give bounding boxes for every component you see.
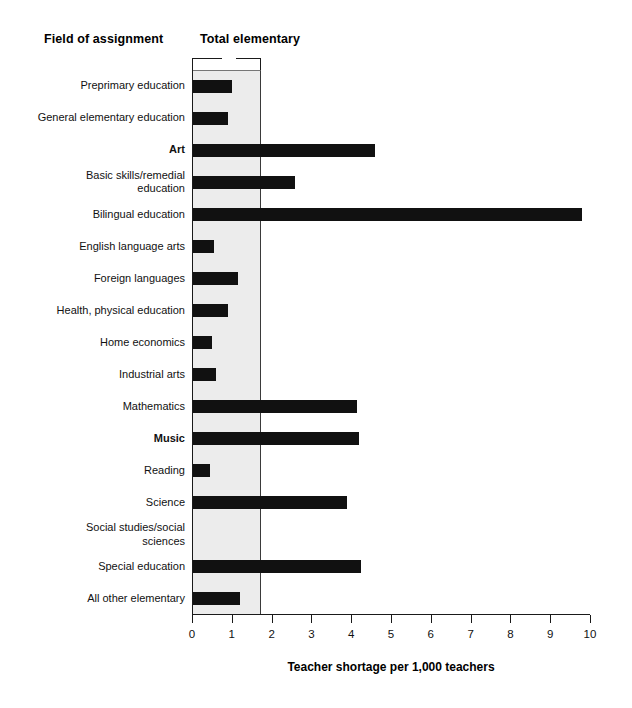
- bar-row: [192, 528, 590, 541]
- y-axis-label: English language arts: [5, 240, 185, 254]
- bar-row: [192, 208, 590, 221]
- total-elementary-bracket-gap: [222, 56, 236, 61]
- x-tick: [351, 615, 352, 623]
- x-tick: [550, 615, 551, 623]
- bar: [192, 336, 212, 349]
- bar: [192, 80, 232, 93]
- y-axis-label: Foreign languages: [5, 272, 185, 286]
- bar: [192, 112, 228, 125]
- bar-row: [192, 400, 590, 413]
- y-axis-label: Reading: [5, 464, 185, 478]
- bar: [192, 496, 347, 509]
- bar: [192, 432, 359, 445]
- x-tick-label: 3: [296, 628, 326, 640]
- y-axis-label: Social studies/social sciences: [5, 521, 185, 548]
- y-axis-label: Preprimary education: [5, 79, 185, 93]
- bar-row: [192, 592, 590, 605]
- x-tick-label: 1: [217, 628, 247, 640]
- y-axis-label: Bilingual education: [5, 208, 185, 222]
- y-axis-label: Music: [5, 432, 185, 446]
- x-axis-title: Teacher shortage per 1,000 teachers: [192, 660, 590, 674]
- x-tick: [431, 615, 432, 623]
- x-axis-ticks: [192, 615, 590, 623]
- bar-row: [192, 176, 590, 189]
- x-tick: [192, 615, 193, 623]
- y-axis-line: [192, 70, 193, 615]
- x-tick: [510, 615, 511, 623]
- total-elementary-title: Total elementary: [200, 32, 300, 46]
- bar: [192, 176, 295, 189]
- y-axis-label: Art: [5, 143, 185, 157]
- teacher-shortage-bar-chart: Field of assignment Total elementary Pre…: [0, 0, 632, 708]
- bar-row: [192, 368, 590, 381]
- x-tick-label: 5: [376, 628, 406, 640]
- x-tick-label: 10: [575, 628, 605, 640]
- bar-row: [192, 144, 590, 157]
- x-tick: [391, 615, 392, 623]
- bar-rows: [192, 70, 590, 615]
- x-tick: [232, 615, 233, 623]
- x-tick: [272, 615, 273, 623]
- y-axis-label: All other elementary: [5, 592, 185, 606]
- y-axis-label: Industrial arts: [5, 368, 185, 382]
- bar-row: [192, 272, 590, 285]
- x-tick-label: 0: [177, 628, 207, 640]
- bar: [192, 208, 582, 221]
- y-axis-label: Mathematics: [5, 400, 185, 414]
- bar-row: [192, 304, 590, 317]
- bar-row: [192, 112, 590, 125]
- bar: [192, 304, 228, 317]
- x-tick-label: 7: [456, 628, 486, 640]
- bar: [192, 272, 238, 285]
- y-axis-label: Health, physical education: [5, 304, 185, 318]
- plot-area: [192, 70, 590, 615]
- y-axis-label: Basic skills/remedial education: [5, 169, 185, 196]
- bar-row: [192, 560, 590, 573]
- x-tick: [590, 615, 591, 623]
- bar: [192, 592, 240, 605]
- bar: [192, 560, 361, 573]
- bar: [192, 368, 216, 381]
- y-axis-label: Science: [5, 496, 185, 510]
- x-tick-label: 4: [336, 628, 366, 640]
- x-tick: [311, 615, 312, 623]
- bar: [192, 464, 210, 477]
- bar: [192, 144, 375, 157]
- y-axis-label: Home economics: [5, 336, 185, 350]
- x-tick-label: 2: [257, 628, 287, 640]
- bar: [192, 400, 357, 413]
- x-tick-label: 8: [495, 628, 525, 640]
- y-axis-label: General elementary education: [5, 111, 185, 125]
- x-tick-label: 9: [535, 628, 565, 640]
- bar-row: [192, 80, 590, 93]
- bar-row: [192, 432, 590, 445]
- bar-row: [192, 464, 590, 477]
- bar-row: [192, 240, 590, 253]
- x-tick: [471, 615, 472, 623]
- x-axis-tick-labels: 012345678910: [192, 628, 590, 644]
- bar: [192, 240, 214, 253]
- field-of-assignment-title: Field of assignment: [44, 32, 163, 46]
- bar-row: [192, 336, 590, 349]
- bar-row: [192, 496, 590, 509]
- y-axis-category-labels: Preprimary educationGeneral elementary e…: [0, 70, 185, 615]
- y-axis-label: Special education: [5, 560, 185, 574]
- x-tick-label: 6: [416, 628, 446, 640]
